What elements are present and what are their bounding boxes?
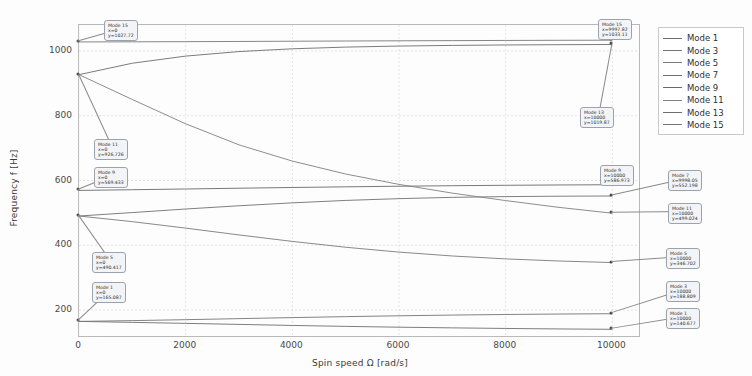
legend-item-mode-5[interactable]: Mode 5 [663,57,740,69]
annotation-callout[interactable]: Mode 15x=9997.82y=1033.11 [598,19,632,40]
legend-item-mode-1[interactable]: Mode 1 [663,32,740,44]
annotation-y-value: y=1033.11 [602,32,628,37]
legend-item-mode-3[interactable]: Mode 3 [663,44,740,56]
annotation-y-value: y=188.809 [670,294,696,299]
legend-label: Mode 15 [687,120,724,130]
campbell-diagram-figure: Frequency f [Hz] Spin speed Ω [rad/s] 20… [0,0,752,376]
legend-item-mode-9[interactable]: Mode 9 [663,82,740,94]
annotation-callout[interactable]: Mode 11x=10000y=499.024 [668,203,702,224]
x-tick-label: 8000 [493,340,516,350]
x-tick-label: 10000 [597,340,626,350]
annotation-y-value: y=346.702 [670,261,696,266]
y-tick-label: 1000 [40,45,72,55]
y-tick-label: 200 [40,304,72,314]
legend-swatch-icon [663,100,682,101]
series-lines [79,25,639,336]
legend-swatch-icon [663,38,682,39]
annotation-callout[interactable]: Mode 5x=10000y=346.702 [666,248,700,269]
annotation-y-value: y=140.677 [670,321,696,326]
annotation-callout[interactable]: Mode 7x=9998.05y=552.198 [668,170,702,191]
legend-swatch-icon [663,87,682,88]
x-tick-label: 4000 [280,340,303,350]
legend-label: Mode 9 [687,83,718,93]
x-tick-label: 0 [75,340,81,350]
annotation-y-value: y=490.417 [96,265,122,270]
x-axis-label: Spin speed Ω [rad/s] [312,358,408,368]
legend: Mode 1Mode 3Mode 5Mode 7Mode 9Mode 11Mod… [658,27,744,135]
annotation-y-value: y=499.024 [672,216,698,221]
legend-swatch-icon [663,62,682,63]
x-tick-label: 2000 [173,340,196,350]
annotation-callout[interactable]: Mode 3x=10000y=188.809 [666,281,700,302]
annotation-callout[interactable]: Mode 11x=0y=926.726 [94,139,128,160]
annotation-callout[interactable]: Mode 9x=0y=569.433 [94,167,128,188]
annotation-callout[interactable]: Mode 9x=10000y=586.973 [600,165,634,186]
y-tick-label: 600 [40,175,72,185]
legend-swatch-icon [663,50,682,51]
legend-item-mode-13[interactable]: Mode 13 [663,106,740,118]
annotation-callout[interactable]: Mode 13x=10000y=1019.87 [580,107,614,128]
annotation-y-value: y=926.726 [98,152,124,157]
legend-item-mode-11[interactable]: Mode 11 [663,94,740,106]
plot-area [78,24,640,337]
annotation-y-value: y=165.087 [96,295,122,300]
legend-label: Mode 1 [687,33,718,43]
annotation-y-value: y=1027.72 [108,33,134,38]
annotation-callout[interactable]: Mode 1x=0y=165.087 [92,282,126,303]
legend-label: Mode 7 [687,70,718,80]
y-axis-label: Frequency f [Hz] [9,149,19,226]
y-tick-label: 800 [40,110,72,120]
annotation-y-value: y=552.198 [672,183,698,188]
annotation-callout[interactable]: Mode 5x=0y=490.417 [92,252,126,273]
x-tick-label: 6000 [387,340,410,350]
annotation-y-value: y=586.973 [604,178,630,183]
annotation-y-value: y=569.433 [98,180,124,185]
legend-label: Mode 11 [687,95,724,105]
y-tick-label: 400 [40,239,72,249]
legend-item-mode-7[interactable]: Mode 7 [663,69,740,81]
legend-label: Mode 5 [687,58,718,68]
annotation-y-value: y=1019.87 [584,120,610,125]
legend-item-mode-15[interactable]: Mode 15 [663,119,740,131]
annotation-callout[interactable]: Mode 15x=0y=1027.72 [104,20,138,41]
legend-label: Mode 3 [687,46,718,56]
legend-label: Mode 13 [687,108,724,118]
legend-swatch-icon [663,112,682,113]
legend-swatch-icon [663,124,682,125]
annotation-callout[interactable]: Mode 1x=10000y=140.677 [666,308,700,329]
legend-swatch-icon [663,75,682,76]
